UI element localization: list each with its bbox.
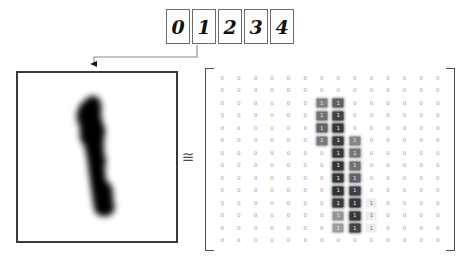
matrix-cell-value: 0	[386, 226, 390, 232]
matrix-cell-1-7: 0	[330, 85, 347, 98]
matrix-cell-6-9: 0	[363, 147, 380, 160]
matrix-cell-value: 1	[337, 113, 341, 119]
matrix-cell-1-0: 0	[214, 85, 231, 98]
matrix-cell-value: 0	[270, 151, 274, 157]
matrix-cell-4-13: 0	[429, 122, 446, 135]
matrix-cell-12-8: 1	[347, 222, 364, 235]
matrix-cell-value: 0	[436, 138, 440, 144]
matrix-cell-1-8: 0	[347, 85, 364, 98]
matrix-cell-4-0: 0	[214, 122, 231, 135]
matrix-cell-value: 0	[221, 201, 225, 207]
matrix-cell-13-0: 0	[214, 235, 231, 248]
digit-sample-3[interactable]: 3	[244, 9, 268, 44]
matrix-cell-value: 0	[270, 88, 274, 94]
blurred-digit-glyph	[18, 73, 176, 241]
matrix-cell-value: 0	[237, 238, 241, 244]
matrix-cell-value: 0	[386, 176, 390, 182]
matrix-cell-value: 0	[370, 101, 374, 107]
matrix-cell-value: 0	[237, 226, 241, 232]
matrix-cell-value: 0	[403, 113, 407, 119]
matrix-cell-value: 0	[419, 76, 423, 82]
matrix-cell-3-11: 0	[396, 110, 413, 123]
matrix-cell-value: 0	[287, 226, 291, 232]
matrix-cell-4-7: 1	[330, 122, 347, 135]
matrix-cell-value: 0	[386, 126, 390, 132]
matrix-cell-3-8: 0	[347, 110, 364, 123]
matrix-cell-value: 0	[386, 76, 390, 82]
matrix-cell-value: 0	[386, 188, 390, 194]
matrix-cell-value: 0	[221, 226, 225, 232]
matrix-cell-4-2: 0	[247, 122, 264, 135]
matrix-cell-value: 0	[320, 163, 324, 169]
matrix-cell-value: 0	[270, 138, 274, 144]
matrix-cell-value: 0	[303, 238, 307, 244]
matrix-cell-value: 1	[320, 113, 324, 119]
matrix-cell-value: 0	[270, 113, 274, 119]
matrix-cell-5-0: 0	[214, 135, 231, 148]
matrix-cell-6-13: 0	[429, 147, 446, 160]
matrix-cell-11-5: 0	[297, 210, 314, 223]
matrix-cell-value: 0	[419, 151, 423, 157]
matrix-cell-value: 0	[254, 151, 258, 157]
matrix-cell-value: 0	[287, 126, 291, 132]
matrix-cell-value: 0	[403, 213, 407, 219]
matrix-cell-13-7: 0	[330, 235, 347, 248]
matrix-cell-13-2: 0	[247, 235, 264, 248]
matrix-cell-value: 1	[337, 226, 341, 232]
digit-sample-1[interactable]: 1	[192, 9, 216, 44]
matrix-cell-10-11: 0	[396, 197, 413, 210]
matrix-cell-1-1: 0	[231, 85, 248, 98]
matrix-cell-value: 1	[353, 151, 357, 157]
digit-sample-4[interactable]: 4	[270, 9, 294, 44]
matrix-cell-12-3: 0	[264, 222, 281, 235]
digit-glyph: 4	[271, 17, 293, 36]
matrix-cell-value: 0	[270, 226, 274, 232]
matrix-cell-value: 0	[303, 138, 307, 144]
matrix-cell-value: 0	[221, 188, 225, 194]
matrix-cell-value: 1	[320, 138, 324, 144]
matrix-cell-11-4: 0	[280, 210, 297, 223]
matrix-cell-value: 0	[320, 213, 324, 219]
digit-sample-2[interactable]: 2	[218, 9, 242, 44]
matrix-cell-value: 0	[221, 176, 225, 182]
matrix-cell-11-12: 0	[413, 210, 430, 223]
matrix-cell-5-9: 0	[363, 135, 380, 148]
matrix-cell-9-12: 0	[413, 185, 430, 198]
matrix-cell-8-6: 0	[313, 172, 330, 185]
matrix-cell-9-0: 0	[214, 185, 231, 198]
matrix-cell-3-13: 0	[429, 110, 446, 123]
matrix-cell-1-5: 0	[297, 85, 314, 98]
matrix-cell-6-6: 0	[313, 147, 330, 160]
matrix-cell-9-8: 1	[347, 185, 364, 198]
matrix-cell-3-12: 0	[413, 110, 430, 123]
digit-sample-0[interactable]: 0	[166, 9, 190, 44]
matrix-cell-5-13: 0	[429, 135, 446, 148]
matrix-cell-value: 0	[303, 113, 307, 119]
matrix-cell-value: 0	[436, 176, 440, 182]
matrix-cell-9-4: 0	[280, 185, 297, 198]
matrix-cell-13-9: 0	[363, 235, 380, 248]
matrix-cell-12-13: 0	[429, 222, 446, 235]
matrix-cell-0-12: 0	[413, 72, 430, 85]
matrix-cell-value: 0	[419, 101, 423, 107]
matrix-cell-value: 0	[254, 76, 258, 82]
matrix-cell-7-10: 0	[380, 160, 397, 173]
matrix-cell-value: 0	[221, 163, 225, 169]
matrix-cell-2-8: 0	[347, 97, 364, 110]
matrix-cell-12-7: 1	[330, 222, 347, 235]
matrix-cell-4-3: 0	[264, 122, 281, 135]
matrix-cell-10-6: 0	[313, 197, 330, 210]
matrix-cell-8-4: 0	[280, 172, 297, 185]
matrix-cell-value: 1	[337, 101, 341, 107]
matrix-cell-value: 0	[419, 226, 423, 232]
matrix-cell-11-1: 0	[231, 210, 248, 223]
matrix-cell-value: 0	[386, 163, 390, 169]
matrix-cell-12-11: 0	[396, 222, 413, 235]
matrix-cell-value: 0	[270, 201, 274, 207]
matrix-cell-13-5: 0	[297, 235, 314, 248]
matrix-cell-value: 0	[353, 101, 357, 107]
matrix-cell-value: 0	[419, 201, 423, 207]
matrix-cell-4-12: 0	[413, 122, 430, 135]
matrix-cell-5-6: 1	[313, 135, 330, 148]
matrix-cell-value: 0	[337, 238, 341, 244]
